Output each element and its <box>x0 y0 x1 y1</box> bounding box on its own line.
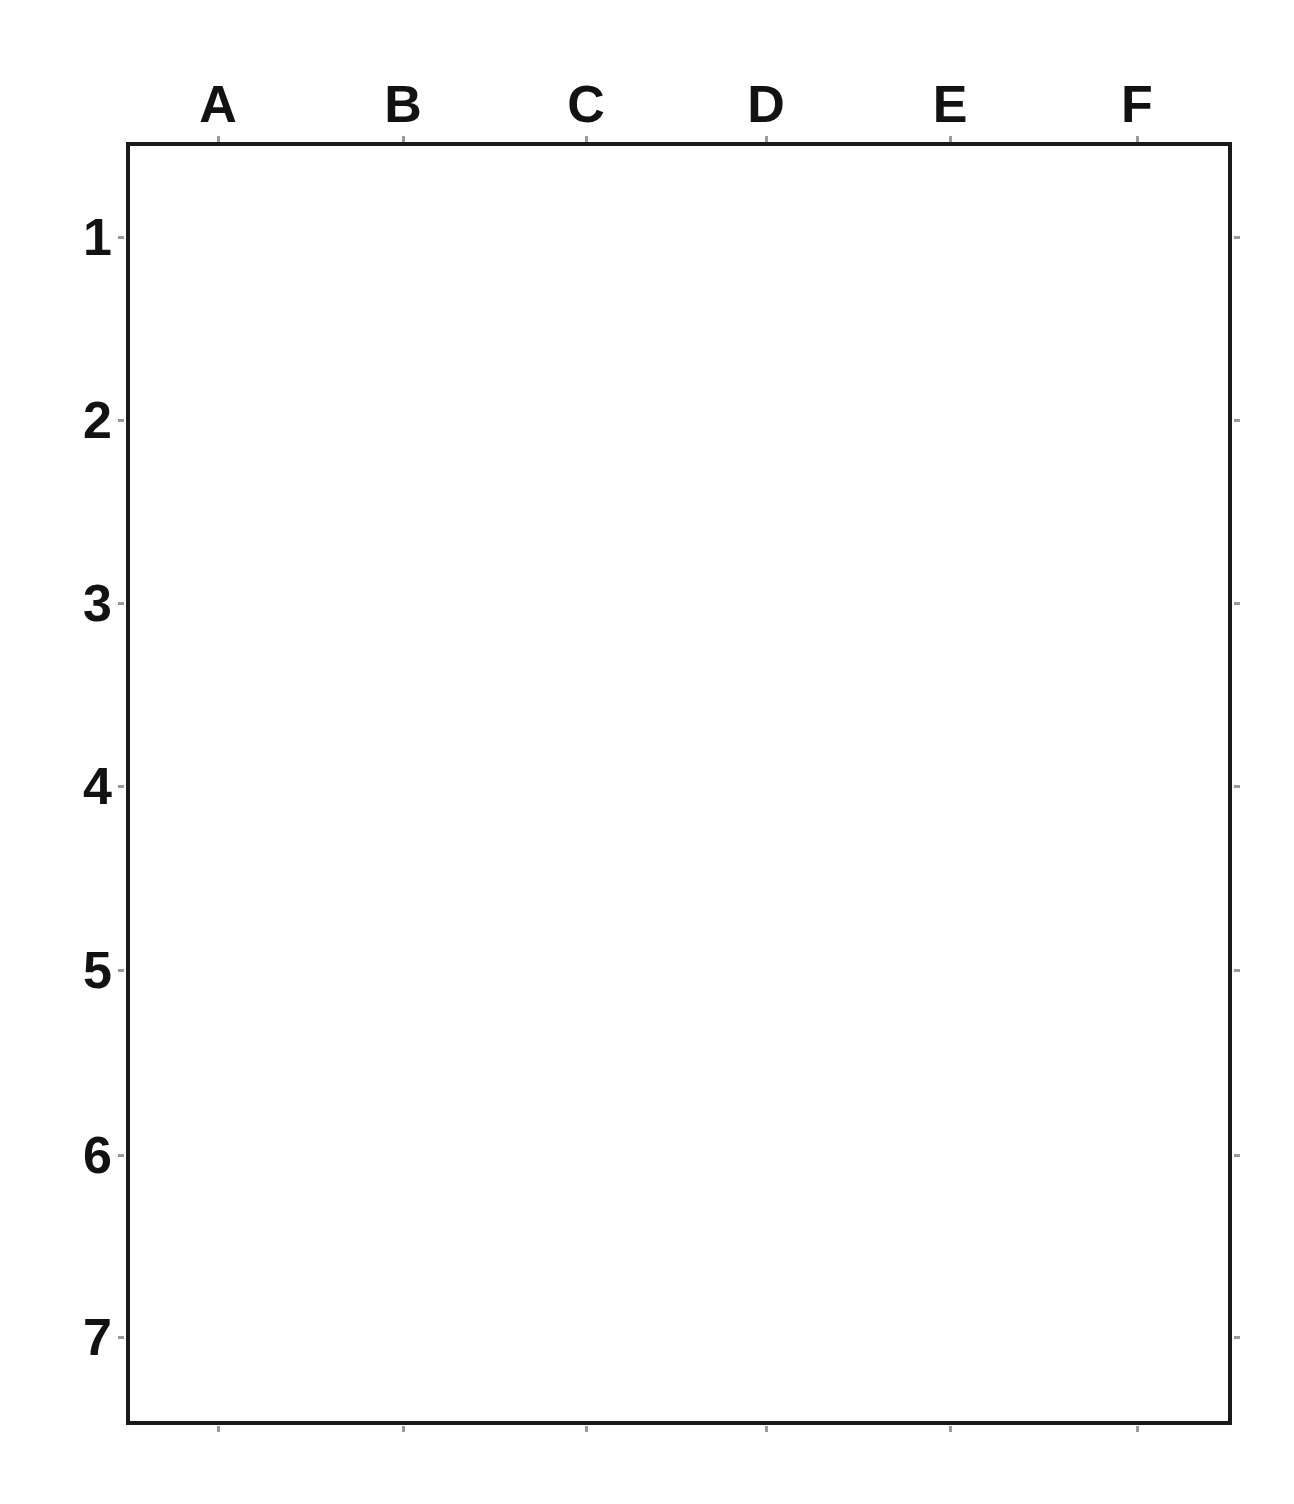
column-header-c: C <box>541 78 631 130</box>
column-header-f: F <box>1092 78 1182 130</box>
column-header-a: A <box>173 78 263 130</box>
row-label-3: 3 <box>58 577 112 629</box>
column-header-d: D <box>721 78 811 130</box>
row-label-5: 5 <box>58 944 112 996</box>
column-header-b: B <box>358 78 448 130</box>
grid-frame[interactable] <box>126 142 1232 1425</box>
column-header-e: E <box>905 78 995 130</box>
row-label-1: 1 <box>58 211 112 263</box>
row-label-4: 4 <box>58 760 112 812</box>
worksheet-page: ABCDEF 1234567 <box>0 0 1294 1504</box>
row-label-6: 6 <box>58 1129 112 1181</box>
row-label-2: 2 <box>58 394 112 446</box>
row-label-7: 7 <box>58 1311 112 1363</box>
